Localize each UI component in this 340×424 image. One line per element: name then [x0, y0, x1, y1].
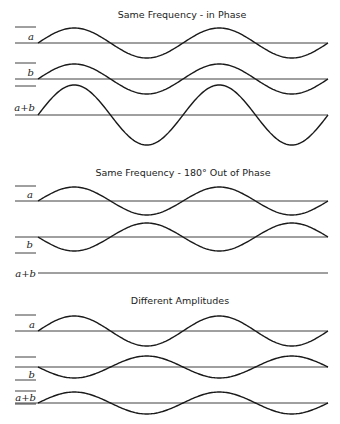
- row-a-plus-b: a+b: [15, 391, 328, 414]
- row-b: b: [15, 356, 328, 380]
- row-a-plus-b: a+b: [14, 85, 328, 145]
- wave-label: a+b: [15, 392, 36, 403]
- section-title: Different Amplitudes: [131, 295, 229, 306]
- wave-label: a: [28, 31, 34, 42]
- wave-label: a: [29, 319, 35, 330]
- wave-label: b: [27, 239, 33, 250]
- wave-label: b: [28, 67, 34, 78]
- section-title: Same Frequency - 180° Out of Phase: [95, 167, 270, 178]
- section-in-phase: Same Frequency - in Phase a b a+b: [14, 9, 328, 145]
- row-a-plus-b: a+b: [15, 268, 328, 279]
- section-different-amplitudes: Different Amplitudes a b a+b: [15, 295, 328, 414]
- wave-label: a: [27, 189, 33, 200]
- row-b: b: [15, 223, 328, 253]
- row-a: a: [15, 27, 328, 58]
- row-a: a: [15, 186, 328, 215]
- wave-label: a+b: [14, 102, 35, 113]
- wave-interference-diagram: Same Frequency - in Phase a b a+b Same F…: [0, 0, 340, 424]
- section-title: Same Frequency - in Phase: [118, 9, 247, 20]
- row-a: a: [15, 315, 328, 346]
- wave-label: a+b: [15, 268, 36, 279]
- wave-label: b: [29, 369, 35, 380]
- section-out-of-phase: Same Frequency - 180° Out of Phase a b a…: [15, 167, 328, 279]
